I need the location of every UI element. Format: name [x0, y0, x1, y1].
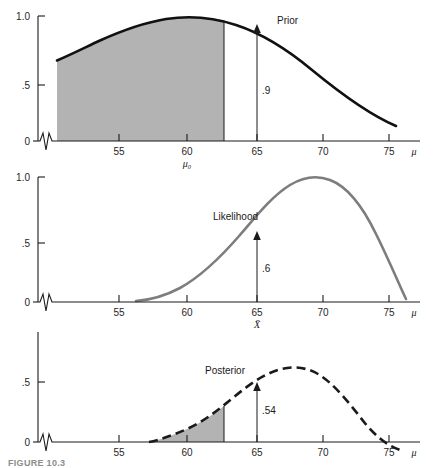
likelihood-xtick-label-70: 70	[317, 307, 329, 318]
panel-likelihood: 1.0 .5 0 55 60 65 70 75 μ X̄ .6 Likeliho…	[16, 172, 420, 330]
prior-curve-label: Prior	[277, 15, 299, 26]
prior-xtick-label-65: 65	[251, 146, 263, 157]
prior-xtick-label-70: 70	[317, 146, 329, 157]
likelihood-curve	[136, 177, 406, 301]
likelihood-x-axis-symbol: μ	[410, 307, 416, 318]
prior-mu0-label: μ₀	[182, 158, 192, 169]
prior-shaded-region	[57, 17, 224, 141]
figure-svg: 1.0 .5 0 55 60 65 70 75 μ μ₀ .9 Prior	[0, 0, 438, 468]
posterior-xtick-label-75: 75	[383, 447, 395, 458]
prior-ytick-label-0: 0	[24, 136, 30, 147]
posterior-xtick-label-60: 60	[181, 447, 193, 458]
likelihood-ytick-label-0: 0	[24, 297, 30, 308]
posterior-x-axis-symbol: μ	[410, 447, 416, 458]
prior-annotation-value: .9	[262, 85, 271, 96]
panel-prior: 1.0 .5 0 55 60 65 70 75 μ μ₀ .9 Prior	[16, 11, 420, 169]
posterior-ytick-label-0: 0	[24, 437, 30, 448]
prior-annotation-arrowhead	[253, 24, 261, 33]
likelihood-ytick-label-half: .5	[22, 238, 31, 249]
likelihood-annotation-arrowhead	[253, 231, 261, 240]
figure-bayesian-prior-likelihood-posterior: 1.0 .5 0 55 60 65 70 75 μ μ₀ .9 Prior	[0, 0, 438, 468]
figure-caption: FIGURE 10.3	[8, 458, 65, 468]
prior-xtick-label-55: 55	[113, 146, 125, 157]
posterior-annotation-value: .54	[262, 405, 276, 416]
posterior-xtick-label-55: 55	[113, 447, 125, 458]
posterior-curve-label: Posterior	[205, 365, 246, 376]
posterior-ytick-label-half: .5	[22, 377, 31, 388]
posterior-x-axis	[38, 434, 420, 451]
likelihood-annotation-value: .6	[262, 263, 271, 274]
likelihood-xtick-label-60: 60	[181, 307, 193, 318]
likelihood-x-axis	[38, 294, 420, 311]
likelihood-curve-label: Likelihood	[213, 211, 258, 222]
posterior-annotation-arrowhead	[253, 382, 261, 391]
prior-x-axis-symbol: μ	[410, 146, 416, 157]
prior-ytick-label-1: 1.0	[16, 11, 30, 22]
posterior-xtick-label-70: 70	[317, 447, 329, 458]
prior-ytick-label-half: .5	[22, 80, 31, 91]
likelihood-xtick-label-55: 55	[113, 307, 125, 318]
likelihood-xbar-label: X̄	[253, 319, 261, 330]
likelihood-xtick-label-75: 75	[383, 307, 395, 318]
panel-posterior: .5 0 55 60 65 70 75 μ .54 Posterior	[22, 332, 420, 458]
posterior-xtick-label-65: 65	[251, 447, 263, 458]
prior-xtick-label-60: 60	[181, 146, 193, 157]
prior-xtick-label-75: 75	[383, 146, 395, 157]
likelihood-xtick-label-65: 65	[251, 307, 263, 318]
likelihood-ytick-label-1: 1.0	[16, 172, 30, 183]
